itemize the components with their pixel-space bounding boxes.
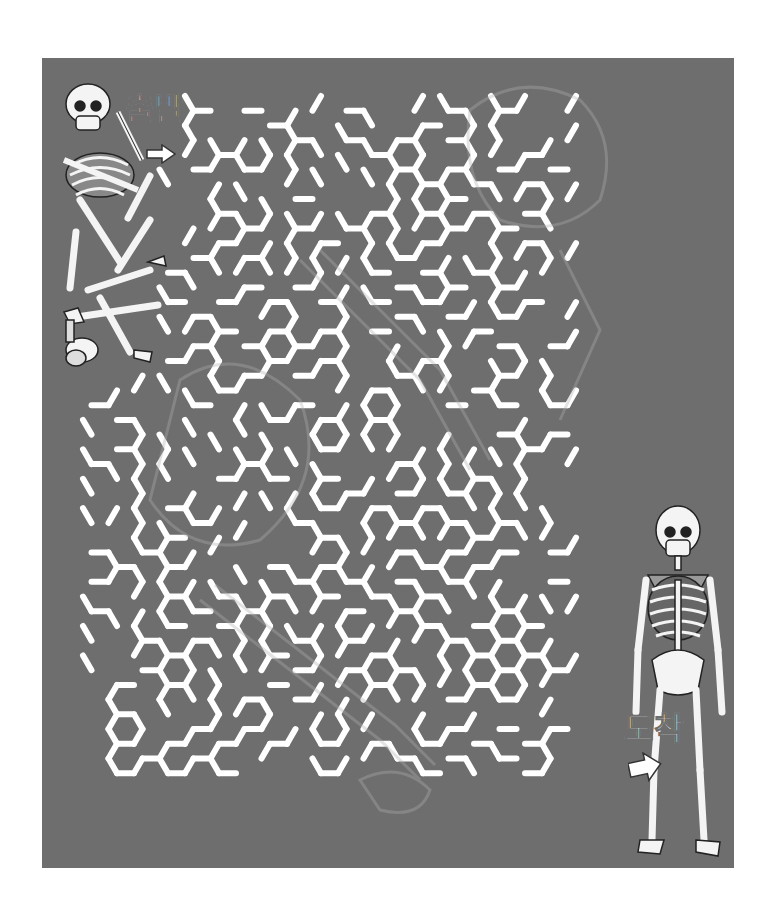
start-arrow-icon xyxy=(146,144,176,164)
start-label: 출발 xyxy=(126,84,184,128)
end-arrow-icon xyxy=(628,752,662,782)
end-label: 도착 xyxy=(624,703,684,749)
